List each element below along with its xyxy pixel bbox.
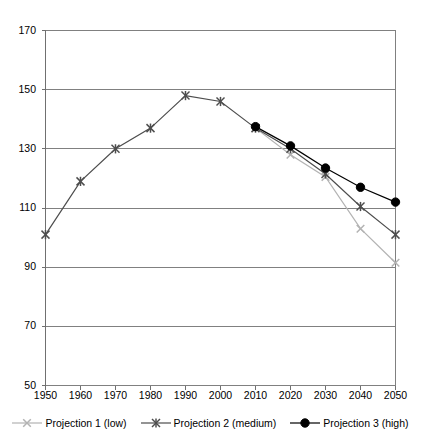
data-point-circle-marker (251, 122, 259, 130)
data-point-asterisk-marker (147, 124, 155, 133)
y-tick-label: 70 (6, 320, 36, 331)
series-asterisk (42, 91, 400, 239)
legend-marker-x-icon (12, 416, 42, 430)
x-tick-label: 2020 (271, 390, 311, 401)
x-tick-label: 2000 (201, 390, 241, 401)
data-point-circle-marker (321, 164, 329, 172)
x-tick-label: 2010 (236, 390, 276, 401)
legend-item[interactable]: Projection 2 (medium) (141, 416, 277, 430)
legend-item-label: Projection 2 (medium) (174, 417, 277, 429)
y-tick-label: 50 (6, 380, 36, 391)
x-tick-label: 1980 (131, 390, 171, 401)
data-point-circle-marker (286, 142, 294, 150)
chart-container: 507090110130150170 195019601970198019902… (0, 0, 421, 446)
data-point-asterisk-marker (42, 230, 50, 239)
legend-item[interactable]: Projection 1 (low) (12, 416, 126, 430)
y-tick-label: 90 (6, 261, 36, 272)
x-tick-label: 2050 (376, 390, 416, 401)
data-point-asterisk-marker (357, 202, 365, 211)
y-tick-label: 130 (6, 143, 36, 154)
series-x (252, 124, 400, 266)
y-tick-label: 170 (6, 25, 36, 36)
x-tick-label: 2030 (306, 390, 346, 401)
data-point-x-marker (357, 225, 365, 233)
x-tick-label: 1990 (166, 390, 206, 401)
x-tick-label: 1960 (61, 390, 101, 401)
series-circle (251, 122, 399, 206)
x-tick-label: 2040 (341, 390, 381, 401)
chart-legend: Projection 1 (low)Projection 2 (medium)P… (0, 412, 421, 434)
data-point-circle-marker (391, 198, 399, 206)
data-point-circle-marker (356, 183, 364, 191)
y-tick-label: 150 (6, 84, 36, 95)
legend-item-label: Projection 1 (low) (45, 417, 126, 429)
x-tick-label: 1950 (26, 390, 66, 401)
legend-marker-asterisk-icon (141, 416, 171, 430)
data-point-asterisk-marker (77, 177, 85, 186)
legend-item-label: Projection 3 (high) (323, 417, 408, 429)
y-tick-label: 110 (6, 202, 36, 213)
x-tick-label: 1970 (96, 390, 136, 401)
line-chart-plot (0, 0, 421, 446)
data-point-circle-marker (301, 419, 309, 427)
legend-item[interactable]: Projection 3 (high) (290, 416, 408, 430)
data-point-asterisk-marker (392, 230, 400, 239)
legend-marker-circle-icon (290, 416, 320, 430)
